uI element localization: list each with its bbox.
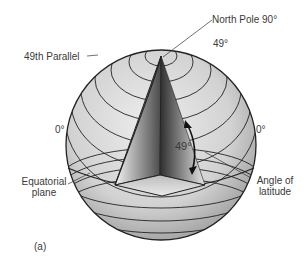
angle-of-latitude-line2: latitude — [250, 186, 300, 197]
equator-right-label: 0° — [256, 124, 266, 135]
equatorial-plane-line2: plane — [14, 187, 74, 198]
equator-left-label: 0° — [55, 124, 65, 135]
equatorial-plane-line1: Equatorial — [14, 176, 74, 187]
angle-value-label: 49° — [175, 141, 192, 152]
angle-of-latitude-line1: Angle of — [250, 175, 300, 186]
angle-of-latitude-label: Angle of latitude — [250, 175, 300, 197]
49th-parallel-label: 49th Parallel — [24, 51, 80, 62]
figure-tag: (a) — [34, 241, 46, 252]
latitude-49-label: 49° — [213, 38, 228, 49]
north-pole-label: North Pole 90° — [212, 14, 277, 25]
equatorial-plane-label: Equatorial plane — [14, 176, 74, 198]
